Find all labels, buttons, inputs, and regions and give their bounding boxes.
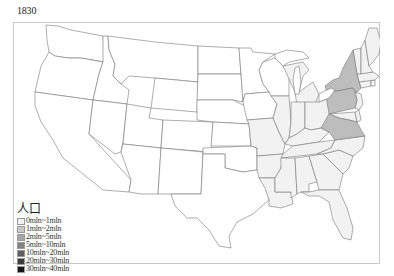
state-montana: [108, 36, 198, 84]
state-utah: [123, 104, 163, 148]
state-colorado: [161, 120, 213, 152]
state-florida: [301, 190, 353, 240]
state-new-mexico: [158, 148, 203, 194]
legend-title: 人口: [17, 203, 69, 216]
state-nebraska: [197, 100, 249, 124]
state-rhode-island: [371, 80, 375, 86]
map-legend: 人口 0mln~1mln 1mln~2mln 2mln~5mln 5mln~10…: [17, 203, 69, 273]
state-south-dakota: [197, 74, 243, 102]
map-year-title: 1830: [17, 5, 36, 16]
legend-item: 30mln~40mln: [17, 265, 69, 273]
legend-swatch: [17, 226, 25, 233]
state-kansas: [211, 122, 251, 146]
legend-label: 30mln~40mln: [26, 265, 69, 273]
legend-swatch: [17, 266, 25, 273]
legend-swatch: [17, 234, 25, 241]
state-wyoming: [151, 78, 198, 112]
legend-swatch: [17, 242, 25, 249]
legend-swatch: [17, 250, 25, 257]
legend-swatch: [17, 218, 25, 225]
state-north-dakota: [198, 46, 241, 74]
legend-swatch: [17, 258, 25, 265]
